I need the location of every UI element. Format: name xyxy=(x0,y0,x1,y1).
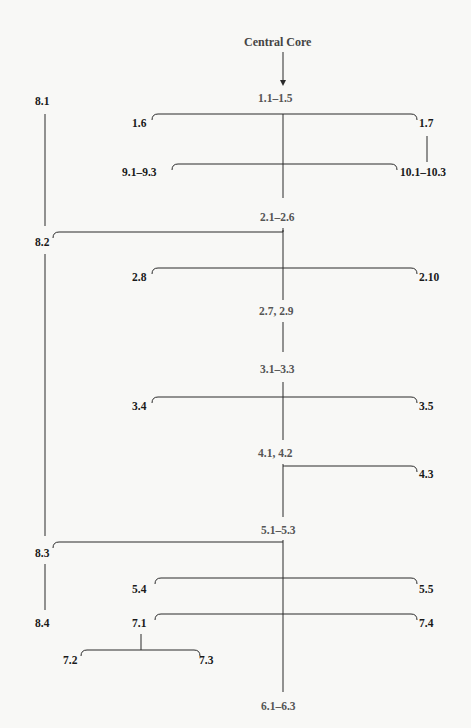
bracket-7-1-7-4 xyxy=(155,614,417,620)
bracket-7-2-7-3 xyxy=(81,650,200,656)
bracket-8-3 xyxy=(53,542,283,548)
arrow-head-icon xyxy=(280,80,286,86)
bracket-2-8-2-10 xyxy=(152,268,417,274)
node-4-3: 4.3 xyxy=(419,469,433,481)
bracket-9-1-10-1 xyxy=(172,164,397,170)
node-3-1-3-3: 3.1–3.3 xyxy=(260,364,295,376)
node-8-2: 8.2 xyxy=(35,237,49,249)
diagram-canvas: Central Core 1.1–1.5 1.6 1.7 9.1–9.3 10.… xyxy=(0,0,471,728)
node-7-1: 7.1 xyxy=(132,618,146,630)
connector-lines xyxy=(0,0,471,728)
node-8-4: 8.4 xyxy=(35,618,49,630)
bracket-5-4-5-5 xyxy=(155,578,417,584)
node-8-1: 8.1 xyxy=(35,96,49,108)
node-7-2: 7.2 xyxy=(63,655,77,667)
node-7-3: 7.3 xyxy=(199,655,213,667)
central-core-title: Central Core xyxy=(244,36,311,48)
node-1-6: 1.6 xyxy=(132,118,146,130)
node-5-4: 5.4 xyxy=(132,584,146,596)
node-5-5: 5.5 xyxy=(419,584,433,596)
bracket-8-2 xyxy=(53,232,283,238)
bracket-4-3 xyxy=(283,466,417,472)
node-5-1-5-3: 5.1–5.3 xyxy=(261,525,296,537)
node-8-3: 8.3 xyxy=(35,548,49,560)
node-4-1-4-2: 4.1, 4.2 xyxy=(258,448,293,460)
node-6-1-6-3: 6.1–6.3 xyxy=(261,701,296,713)
node-10-1-10-3: 10.1–10.3 xyxy=(400,167,446,179)
bracket-3-4-3-5 xyxy=(152,397,417,403)
node-3-5: 3.5 xyxy=(419,401,433,413)
node-9-1-9-3: 9.1–9.3 xyxy=(122,167,157,179)
node-7-4: 7.4 xyxy=(419,618,433,630)
node-2-8: 2.8 xyxy=(132,272,146,284)
node-2-1-2-6: 2.1–2.6 xyxy=(260,212,295,224)
node-1-1-1-5: 1.1–1.5 xyxy=(258,93,293,105)
node-2-10: 2.10 xyxy=(419,272,439,284)
node-2-7-2-9: 2.7, 2.9 xyxy=(259,306,294,318)
bracket-1-6-1-7 xyxy=(152,114,417,120)
node-3-4: 3.4 xyxy=(132,401,146,413)
node-1-7: 1.7 xyxy=(419,118,433,130)
